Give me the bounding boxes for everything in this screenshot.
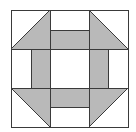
bar-bottom-shaded — [50, 88, 89, 107]
quilt-block-svg — [0, 0, 136, 132]
bar-right-shaded — [89, 49, 108, 88]
bar-left-shaded — [31, 49, 50, 88]
block-background — [11, 10, 129, 128]
quilt-block-diagram: Churn Dash quilt block — [0, 0, 136, 132]
bar-top-shaded — [50, 30, 89, 49]
